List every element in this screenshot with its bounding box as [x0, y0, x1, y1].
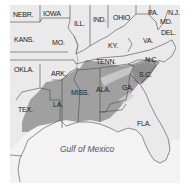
state-label-la: LA.: [53, 101, 63, 108]
state-label-ark: ARK.: [51, 70, 67, 77]
state-label-mo: MO.: [52, 39, 65, 46]
state-label-okla: OKLA.: [14, 66, 34, 73]
state-label-ky: KY.: [108, 42, 118, 49]
state-label-nebr: NEBR.: [13, 11, 33, 18]
state-label-md: MD.: [160, 18, 172, 25]
state-label-sc: S.C.: [139, 71, 152, 78]
state-label-fla: FLA.: [137, 120, 151, 127]
state-label-miss: MISS.: [71, 89, 89, 96]
state-label-ind: IND.: [93, 16, 106, 23]
state-label-iowa: IOWA: [43, 10, 61, 17]
state-label-tenn: TENN.: [96, 58, 116, 65]
state-label-ohio: OHIO: [113, 14, 130, 21]
state-label-kans: KANS.: [14, 36, 34, 43]
state-label-va: VA.: [143, 37, 153, 44]
state-label-nc: N.C.: [145, 56, 158, 63]
state-label-nj: N.J.: [168, 9, 180, 16]
state-label-tex: TEX.: [18, 106, 33, 113]
state-label-ala: ALA.: [96, 86, 110, 93]
water-label-gulf: Gulf of Mexico: [60, 144, 114, 154]
state-label-ga: GA.: [122, 84, 133, 91]
state-label-pa: PA.: [148, 9, 158, 16]
state-label-del: DEL.: [161, 29, 176, 36]
state-label-ill: ILL.: [74, 20, 85, 27]
